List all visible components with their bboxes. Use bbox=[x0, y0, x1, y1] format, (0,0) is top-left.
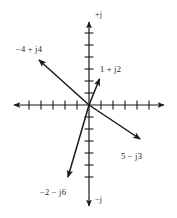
argand-diagram-canvas bbox=[0, 0, 177, 218]
vector-5-minus-j3 bbox=[89, 105, 140, 139]
imaginary-axis-positive-label: +j bbox=[95, 11, 102, 19]
vector-label-minus2-minus-j6: −2 − j6 bbox=[40, 188, 66, 197]
imaginary-axis-negative-label: −j bbox=[95, 196, 102, 204]
vector-label-5-minus-j3: 5 − j3 bbox=[121, 152, 142, 161]
argand-diagram-figure: +j −j −4 + j4 1 + j2 5 − j3 −2 − j6 bbox=[0, 0, 177, 218]
vector-label-minus4-plus-j4: −4 + j4 bbox=[16, 45, 42, 54]
vector-minus4-plus-j4 bbox=[39, 60, 89, 105]
vector-label-1-plus-j2: 1 + j2 bbox=[100, 65, 121, 74]
vector-1-plus-j2 bbox=[89, 79, 100, 105]
